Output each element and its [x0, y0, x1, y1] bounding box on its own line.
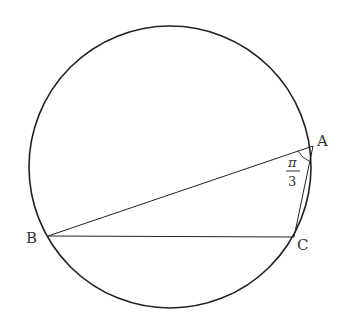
segment-bc: [48, 236, 294, 237]
segment-ca: [294, 146, 313, 237]
point-label-a: A: [316, 132, 328, 150]
point-label-c: C: [297, 236, 308, 254]
circle-diagram: A B C π 3: [0, 0, 353, 330]
segment-ab: [48, 146, 313, 236]
circumcircle: [29, 26, 311, 308]
angle-numerator: π: [287, 155, 297, 170]
angle-denominator: 3: [288, 174, 296, 189]
angle-arc: [298, 151, 309, 161]
point-label-b: B: [26, 229, 37, 247]
